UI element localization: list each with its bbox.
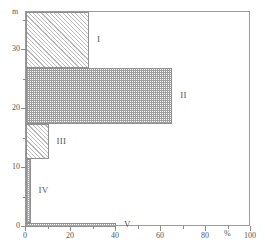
x-axis-unit-label: % [224,230,231,238]
x-minor-tick-30 [93,226,94,229]
y-minor-tick-25 [23,79,26,80]
x-minor-tick-70 [183,226,184,229]
bar-label-II: II [180,91,187,100]
y-tick-label-30: 30 [0,45,20,53]
y-tick-label-0: 0 [0,222,20,230]
y-tick-10 [21,167,26,168]
y-minor-tick-5 [23,197,26,198]
x-minor-tick-10 [48,226,49,229]
bar-label-III: III [57,137,67,146]
x-tick-label-100: 100 [239,232,261,240]
x-tick-label-80: 80 [194,232,216,240]
x-tick-label-40: 40 [104,232,126,240]
bar-III [26,124,49,159]
y-tick-30 [21,49,26,50]
horizontal-bar-chart: m % I II III IV V 0102030020406080100 [0,0,265,242]
x-tick-label-60: 60 [149,232,171,240]
bar-I [26,12,89,68]
bar-V [26,223,116,227]
y-tick-label-20: 20 [0,104,20,112]
bar-label-I: I [97,35,100,44]
x-minor-tick-50 [138,226,139,229]
plot-area: I II III IV V [25,11,250,226]
bar-IV [26,159,31,223]
y-minor-tick-35 [23,20,26,21]
y-axis-unit-label: m [12,8,18,16]
x-tick-label-20: 20 [59,232,81,240]
bar-II [26,68,172,124]
bar-label-IV: IV [39,186,49,195]
y-minor-tick-15 [23,138,26,139]
bar-label-V: V [124,220,131,229]
y-tick-label-10: 10 [0,163,20,171]
x-minor-tick-90 [228,226,229,229]
y-tick-20 [21,108,26,109]
x-tick-label-0: 0 [14,232,36,240]
